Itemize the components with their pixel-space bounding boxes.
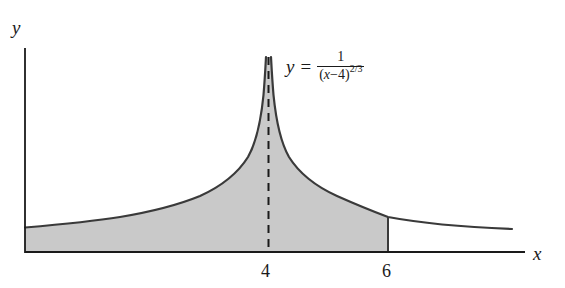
figure-container: y x 4 6 y = 1 (x−4) 2/3 [0, 0, 565, 288]
denominator-exponent: 2/3 [350, 64, 363, 75]
equation-lhs: y [286, 57, 294, 76]
graph-canvas: y x 4 6 [0, 0, 565, 288]
equation-equals-sign: = [300, 57, 311, 76]
denominator-base: (x−4) [319, 68, 349, 83]
equation-annotation: y = 1 (x−4) 2/3 [286, 50, 364, 82]
equation-denominator: (x−4) 2/3 [317, 67, 364, 83]
equation-fraction: 1 (x−4) 2/3 [317, 50, 364, 82]
tick-label-6: 6 [382, 261, 391, 281]
x-axis-label: x [532, 243, 542, 264]
denominator-constant: 4 [338, 67, 345, 82]
minus-sign: − [330, 67, 338, 82]
y-axis-label: y [10, 17, 21, 38]
equation-numerator: 1 [331, 50, 350, 66]
tick-label-4: 4 [261, 261, 270, 281]
